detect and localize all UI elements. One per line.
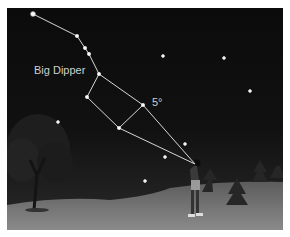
background-star-icon — [143, 179, 147, 183]
constellation-star-icon — [83, 46, 88, 51]
constellation-star-icon — [75, 34, 80, 39]
constellation-star-icon — [141, 103, 146, 108]
background-star-icon — [163, 155, 167, 159]
background-star-icon — [248, 89, 252, 93]
background-star-icon — [161, 54, 165, 58]
constellation-star-icon — [97, 72, 102, 77]
tree-icon — [4, 114, 73, 212]
constellation-star-icon — [117, 126, 122, 131]
background-star-icon — [56, 120, 60, 124]
constellation-star-icon — [85, 95, 90, 100]
diagram-canvas — [0, 0, 290, 237]
background-star-icon — [222, 56, 226, 60]
angle-label: 5° — [152, 96, 163, 108]
background-star-icon — [183, 142, 187, 146]
big-dipper-label: Big Dipper — [34, 64, 85, 76]
constellation-star-icon — [87, 52, 92, 57]
constellation-star-icon — [30, 11, 36, 17]
